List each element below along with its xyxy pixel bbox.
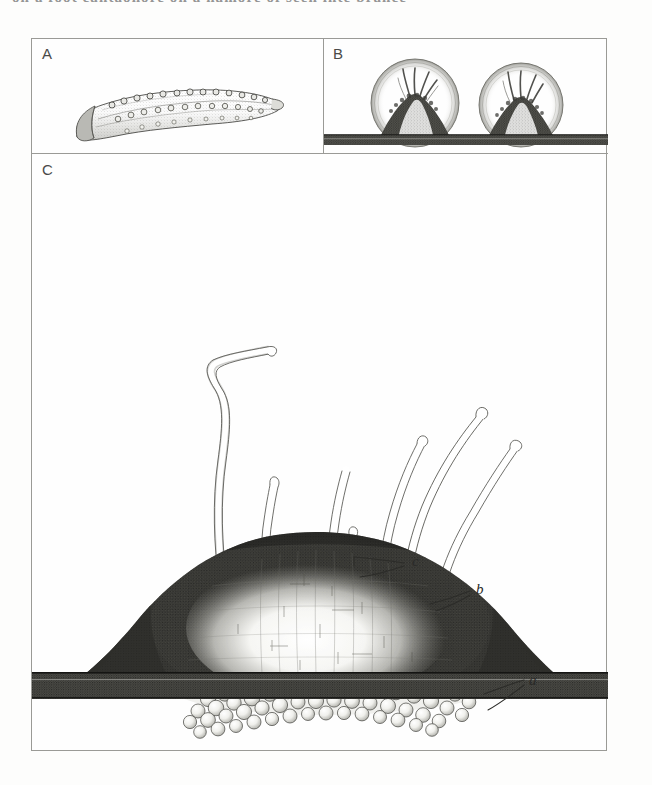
panel-a: A bbox=[32, 39, 324, 154]
panel-b-letter: B bbox=[333, 45, 344, 62]
larva-body bbox=[76, 89, 283, 141]
substrate bbox=[32, 672, 608, 699]
panel-a-letter: A bbox=[42, 45, 53, 62]
label-a: a bbox=[529, 672, 537, 689]
panel-c: C bbox=[32, 154, 608, 752]
panel-c-illustration bbox=[32, 154, 608, 752]
panel-b-substrate bbox=[324, 134, 608, 145]
panel-c-letter: C bbox=[42, 161, 53, 178]
panel-b: B bbox=[324, 39, 608, 154]
figure-plate: A bbox=[31, 38, 607, 751]
running-header-text: on a foot cantaonore on a namore of seen… bbox=[12, 0, 407, 6]
panel-a-illustration bbox=[32, 39, 324, 154]
label-c: c bbox=[412, 553, 419, 570]
running-header: on a foot cantaonore on a namore of seen… bbox=[0, 0, 652, 13]
label-b: b bbox=[476, 581, 484, 598]
panel-b-mound-left bbox=[371, 59, 459, 147]
panel-b-illustration bbox=[324, 39, 608, 154]
